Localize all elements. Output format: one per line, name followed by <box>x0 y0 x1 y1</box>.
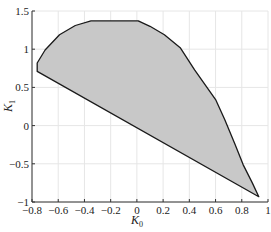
x-tick-label: 0.8 <box>235 204 249 216</box>
x-tick-label: 0.2 <box>156 204 170 216</box>
y-tick-label: −1 <box>17 196 29 208</box>
x-axis-label: K0 <box>130 213 143 229</box>
y-tick-label: 1 <box>24 43 30 55</box>
x-tick-label: −0.2 <box>101 204 121 216</box>
y-tick-label: 0.5 <box>15 81 29 93</box>
x-tick-label: 1 <box>265 204 271 216</box>
y-axis-label: K1 <box>1 100 17 113</box>
x-tick-label: 0.6 <box>209 204 223 216</box>
y-tick-label: 1.5 <box>15 5 29 17</box>
stability-region-chart: −0.8−0.6−0.4−0.200.20.40.60.81 −1−0.500.… <box>0 0 271 232</box>
y-tick-label: 0 <box>24 120 30 132</box>
x-tick-label: −0.4 <box>74 204 94 216</box>
x-tick-labels: −0.8−0.6−0.4−0.200.20.40.60.81 <box>22 204 271 216</box>
y-tick-label: −0.5 <box>9 158 29 170</box>
shaded-region <box>37 21 259 197</box>
x-tick-label: 0.4 <box>182 204 196 216</box>
x-tick-label: −0.6 <box>48 204 68 216</box>
